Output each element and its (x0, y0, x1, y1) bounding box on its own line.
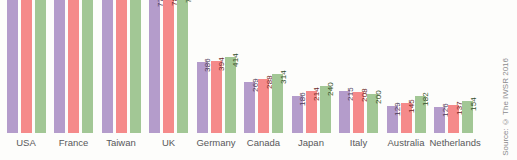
bar-group: 215208200 (335, 0, 383, 133)
bar: 780 (163, 0, 174, 133)
x-axis-label: Germany (192, 137, 240, 149)
bar: 145 (401, 103, 412, 133)
bar: 208 (353, 92, 364, 133)
x-axis-label: USA (2, 137, 50, 149)
x-axis-label: France (50, 137, 98, 149)
bar-group: 269288314 (240, 0, 288, 133)
bar: 129 (387, 106, 398, 133)
x-axis-label: Italy (335, 137, 383, 149)
bar (102, 0, 113, 133)
bar: 269 (244, 82, 255, 133)
bar-group (50, 0, 98, 133)
bar-group: 186214240 (287, 0, 335, 133)
bar: 137 (448, 105, 459, 133)
bar: 795 (177, 0, 188, 133)
bar: 182 (415, 96, 426, 133)
bar (21, 0, 32, 133)
bar-group: 386394414 (192, 0, 240, 133)
bar-value-label: 154 (468, 97, 479, 111)
bar: 386 (197, 62, 208, 133)
bar: 200 (367, 94, 378, 133)
bar: 214 (306, 91, 317, 133)
bar (116, 0, 127, 133)
bar: 215 (339, 91, 350, 133)
bar: 154 (462, 101, 473, 133)
bar: 414 (225, 57, 236, 133)
x-axis-label: UK (145, 137, 193, 149)
bar (130, 0, 141, 133)
bar-group: 774780795 (145, 0, 193, 133)
x-axis-label: Japan (287, 137, 335, 149)
bar: 314 (272, 74, 283, 133)
bar: 288 (258, 79, 269, 133)
bar-group (2, 0, 50, 133)
bar-group (97, 0, 145, 133)
bar: 186 (292, 96, 303, 133)
bar: 774 (149, 0, 160, 133)
x-axis-label: Canada (240, 137, 288, 149)
bar (82, 0, 93, 133)
bar (54, 0, 65, 133)
bar-group: 126137154 (430, 0, 478, 133)
bar: 126 (434, 107, 445, 133)
bar (35, 0, 46, 133)
bar-chart: 7747807953863944142692883141862142402152… (0, 0, 517, 160)
plot-area: 7747807953863944142692883141862142402152… (0, 0, 480, 133)
bar: 394 (211, 61, 222, 133)
x-axis: USAFranceTaiwanUKGermanyCanadaJapanItaly… (0, 133, 480, 160)
x-axis-label: Taiwan (97, 137, 145, 149)
bar-group: 129145182 (382, 0, 430, 133)
bar: 240 (320, 86, 331, 133)
x-axis-label: Netherlands (430, 137, 478, 149)
bar (68, 0, 79, 133)
x-axis-label: Australia (382, 137, 430, 149)
source-attribution: Source: © The IWSR 2016 (501, 58, 515, 156)
bar (7, 0, 18, 133)
